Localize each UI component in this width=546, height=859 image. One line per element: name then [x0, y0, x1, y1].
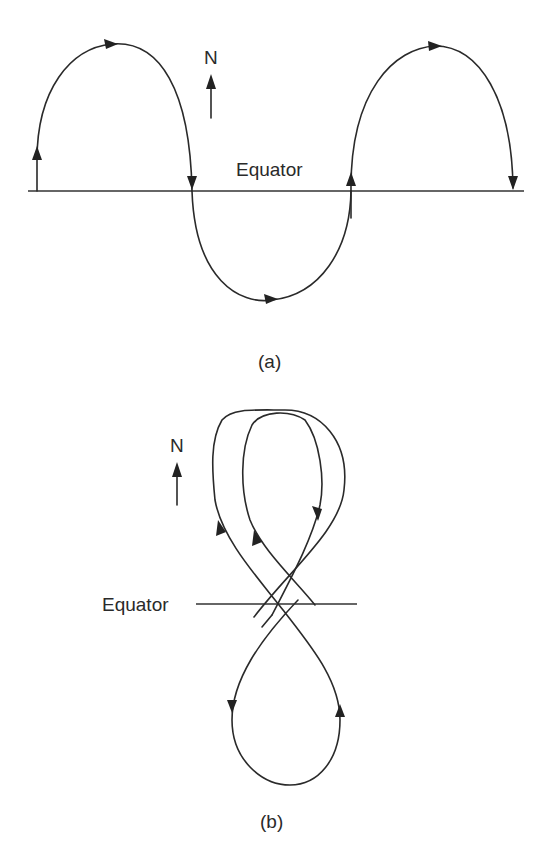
north-label-b: N [170, 436, 184, 455]
equator-label-a: Equator [236, 160, 303, 179]
track-loop-inner [243, 413, 322, 615]
figure-b-diagram [0, 0, 546, 859]
track-loop-outer [213, 410, 345, 785]
arrow-up-icon [335, 704, 345, 717]
figure-a-caption: (a) [258, 352, 281, 371]
track-tail-b [262, 615, 272, 627]
arrow-down-icon [227, 700, 237, 713]
north-label-a: N [204, 48, 218, 67]
north-arrow-icon [172, 462, 182, 477]
equator-label-b: Equator [102, 595, 169, 614]
figure-b-caption: (b) [260, 812, 283, 831]
